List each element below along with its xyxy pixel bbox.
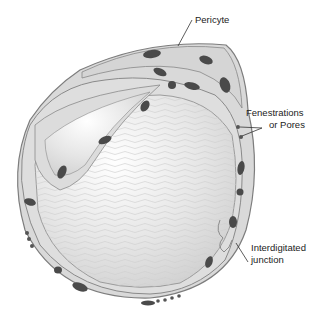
pericyte-leader-line [178, 20, 192, 46]
capillary-diagram: Pericyte Fenestrations or Pores Interdig… [0, 0, 320, 319]
pericyte-label: Pericyte [195, 14, 229, 25]
junction-label-line1: Interdigitated [251, 242, 306, 253]
fenestrations-label-line2: or Pores [269, 119, 305, 130]
junction-leader-line [236, 243, 248, 262]
junction-label-line2: junction [251, 254, 284, 265]
fenestrations-label-line1: Fenestrations [246, 107, 304, 118]
